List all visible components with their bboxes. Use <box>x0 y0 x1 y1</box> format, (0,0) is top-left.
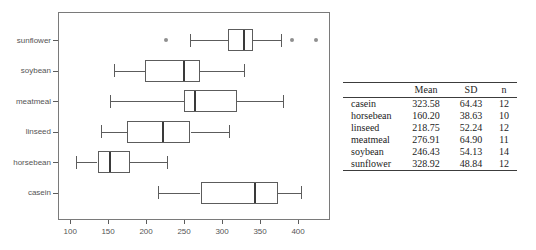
x-tick-200 <box>146 220 147 224</box>
category-label-soybean: soybean <box>0 66 51 75</box>
stats-cell-horsebean-mean: 160.20 <box>401 110 451 122</box>
outlier-dot-sunflower-2 <box>314 38 318 42</box>
stats-row-linseed: linseed218.7552.2412 <box>343 122 517 134</box>
whisker-cap-high-soybean <box>244 64 245 77</box>
stats-cell-casein-sd: 64.43 <box>451 98 491 111</box>
x-tick-label-250: 250 <box>171 227 197 236</box>
stats-cell-casein-label: casein <box>343 98 401 111</box>
median-line-soybean <box>183 61 185 81</box>
stats-header-Mean: Mean <box>401 83 451 98</box>
whisker-cap-low-soybean <box>114 64 115 77</box>
y-tick-soybean <box>53 71 58 72</box>
stats-cell-soybean-sd: 54.13 <box>451 146 491 158</box>
x-tick-label-350: 350 <box>247 227 273 236</box>
x-tick-100 <box>70 220 71 224</box>
stats-table-body: casein323.5864.4312horsebean160.2038.631… <box>343 98 517 171</box>
stats-cell-soybean-label: soybean <box>343 146 401 158</box>
median-line-meatmeal <box>194 91 196 111</box>
stats-cell-linseed-n: 12 <box>491 122 517 134</box>
figure-root: sunflowersoybeanmeatmeallinseedhorsebean… <box>0 0 536 250</box>
stats-cell-meatmeal-n: 11 <box>491 134 517 146</box>
stats-header-row: MeanSDn <box>343 83 517 98</box>
stats-cell-sunflower-label: sunflower <box>343 158 401 171</box>
category-label-horsebean: horsebean <box>0 158 51 167</box>
median-line-sunflower <box>243 30 245 50</box>
box-linseed <box>127 121 190 143</box>
stats-cell-casein-n: 12 <box>491 98 517 111</box>
median-line-linseed <box>162 122 164 142</box>
whisker-cap-low-casein <box>158 186 159 199</box>
stats-cell-sunflower-mean: 328.92 <box>401 158 451 171</box>
x-tick-label-200: 200 <box>133 227 159 236</box>
box-sunflower <box>228 29 253 51</box>
stats-row-casein: casein323.5864.4312 <box>343 98 517 111</box>
stats-cell-casein-mean: 323.58 <box>401 98 451 111</box>
median-line-casein <box>254 183 256 203</box>
whisker-cap-high-linseed <box>229 125 230 138</box>
y-tick-linseed <box>53 132 58 133</box>
whisker-line-low-linseed <box>101 132 127 133</box>
stats-cell-linseed-mean: 218.75 <box>401 122 451 134</box>
category-label-sunflower: sunflower <box>0 36 51 45</box>
stats-header-SD: SD <box>451 83 491 98</box>
whisker-line-low-sunflower <box>190 40 228 41</box>
whisker-cap-high-horsebean <box>167 156 168 169</box>
x-tick-400 <box>298 220 299 224</box>
median-line-horsebean <box>109 152 111 172</box>
stats-row-sunflower: sunflower328.9248.8412 <box>343 158 517 171</box>
whisker-line-low-soybean <box>114 71 145 72</box>
whisker-line-low-horsebean <box>76 162 97 163</box>
stats-header-n: n <box>491 83 517 98</box>
x-tick-label-300: 300 <box>209 227 235 236</box>
whisker-cap-high-meatmeal <box>283 95 284 108</box>
stats-cell-horsebean-n: 10 <box>491 110 517 122</box>
x-tick-label-150: 150 <box>95 227 121 236</box>
stats-cell-sunflower-sd: 48.84 <box>451 158 491 171</box>
outlier-dot-sunflower-1 <box>290 38 294 42</box>
whisker-cap-low-meatmeal <box>110 95 111 108</box>
whisker-cap-low-horsebean <box>76 156 77 169</box>
whisker-line-high-meatmeal <box>237 101 283 102</box>
box-casein <box>201 182 279 204</box>
stats-table: MeanSDn casein323.5864.4312horsebean160.… <box>343 82 517 171</box>
stats-row-horsebean: horsebean160.2038.6310 <box>343 110 517 122</box>
whisker-line-high-soybean <box>200 71 244 72</box>
stats-row-meatmeal: meatmeal276.9164.9011 <box>343 134 517 146</box>
stats-cell-horsebean-label: horsebean <box>343 110 401 122</box>
x-tick-350 <box>260 220 261 224</box>
whisker-cap-high-casein <box>301 186 302 199</box>
stats-cell-soybean-n: 14 <box>491 146 517 158</box>
boxplot-chart: sunflowersoybeanmeatmeallinseedhorsebean… <box>0 0 340 250</box>
stats-cell-soybean-mean: 246.43 <box>401 146 451 158</box>
box-horsebean <box>98 151 131 173</box>
x-tick-label-400: 400 <box>285 227 311 236</box>
whisker-line-low-meatmeal <box>110 101 183 102</box>
x-tick-300 <box>222 220 223 224</box>
stats-cell-linseed-sd: 52.24 <box>451 122 491 134</box>
stats-row-soybean: soybean246.4354.1314 <box>343 146 517 158</box>
box-meatmeal <box>184 90 238 112</box>
stats-cell-linseed-label: linseed <box>343 122 401 134</box>
x-tick-150 <box>108 220 109 224</box>
stats-header-blank <box>343 83 401 98</box>
y-tick-sunflower <box>53 40 58 41</box>
whisker-cap-low-sunflower <box>190 34 191 47</box>
y-tick-horsebean <box>53 162 58 163</box>
x-tick-250 <box>184 220 185 224</box>
y-tick-meatmeal <box>53 101 58 102</box>
category-label-casein: casein <box>0 188 51 197</box>
category-label-linseed: linseed <box>0 127 51 136</box>
whisker-line-high-casein <box>278 193 301 194</box>
stats-table-header: MeanSDn <box>343 83 517 98</box>
whisker-cap-high-sunflower <box>281 34 282 47</box>
outlier-dot-sunflower-0 <box>164 38 168 42</box>
category-label-meatmeal: meatmeal <box>0 97 51 106</box>
stats-cell-horsebean-sd: 38.63 <box>451 110 491 122</box>
stats-cell-meatmeal-label: meatmeal <box>343 134 401 146</box>
stats-cell-sunflower-n: 12 <box>491 158 517 171</box>
y-tick-casein <box>53 193 58 194</box>
x-tick-label-100: 100 <box>57 227 83 236</box>
whisker-cap-low-linseed <box>101 125 102 138</box>
stats-cell-meatmeal-mean: 276.91 <box>401 134 451 146</box>
whisker-line-low-casein <box>158 193 200 194</box>
